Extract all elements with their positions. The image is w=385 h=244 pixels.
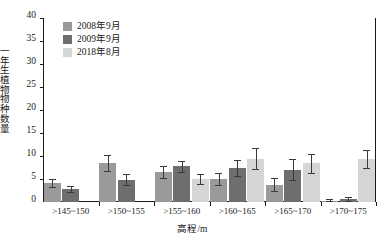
y-axis-tick-mark [40, 41, 44, 42]
x-axis-tick-label: >145~150 [43, 207, 99, 216]
error-bar-cap-lower [49, 187, 56, 188]
error-bar-cap-lower [252, 169, 259, 170]
y-axis-tick-mark [40, 64, 44, 65]
error-bar [367, 150, 368, 168]
error-bar-cap-upper [160, 166, 167, 167]
error-bar-cap-upper [289, 159, 296, 160]
annual-plant-species-bar-chart: 一年生植物物种数量 0510152025303540 >145~150>150~… [0, 0, 385, 244]
y-axis-tick-label: 25 [27, 80, 37, 90]
y-axis-title-char: 量 [0, 125, 14, 135]
y-axis-tick-label: 40 [27, 11, 37, 21]
error-bar-cap-lower [123, 185, 130, 186]
error-bar-cap-upper [49, 179, 56, 180]
error-bar-cap-upper [178, 161, 185, 162]
legend: 2008年9月2009年9月2018年8月 [63, 20, 121, 59]
legend-item: 2018年8月 [63, 46, 121, 59]
error-bar-cap-lower [104, 171, 111, 172]
x-axis-tick-mark [99, 202, 100, 206]
x-axis-tick-mark [265, 202, 266, 206]
error-bar-cap-lower [326, 201, 333, 202]
y-axis-tick-mark [40, 87, 44, 88]
legend-item: 2008年9月 [63, 20, 121, 33]
legend-label: 2018年8月 [77, 48, 121, 58]
error-bar-cap-lower [67, 192, 74, 193]
legend-label: 2008年9月 [77, 22, 121, 32]
y-axis-tick-mark [40, 110, 44, 111]
y-axis-tick-label: 5 [31, 172, 36, 182]
error-bar-cap-upper [197, 174, 204, 175]
legend-swatch-icon [63, 22, 72, 31]
error-bar [182, 161, 183, 172]
error-bar-cap-upper [363, 150, 370, 151]
error-bar-cap-upper [345, 197, 352, 198]
y-axis-tick-mark [40, 156, 44, 157]
y-axis-tick-label: 10 [27, 149, 37, 159]
error-bar [274, 178, 275, 191]
x-axis-tick-label: >155~160 [154, 207, 210, 216]
error-bar [52, 179, 53, 187]
error-bar [311, 154, 312, 173]
error-bar-cap-lower [289, 180, 296, 181]
x-axis-tick-mark [376, 202, 377, 206]
x-axis-tick-mark [154, 202, 155, 206]
error-bar-cap-upper [252, 148, 259, 149]
error-bar-cap-lower [234, 176, 241, 177]
error-bar-cap-lower [197, 184, 204, 185]
x-axis-tick-label: >160~165 [210, 207, 266, 216]
error-bar-cap-upper [104, 155, 111, 156]
legend-item: 2009年9月 [63, 33, 121, 46]
error-bar-cap-lower [271, 191, 278, 192]
error-bar [256, 148, 257, 169]
error-bar [163, 166, 164, 178]
error-bar-cap-lower [215, 185, 222, 186]
y-axis-tick-label: 30 [27, 57, 37, 67]
error-bar-cap-lower [363, 168, 370, 169]
x-axis-tick-label: >170~175 [321, 207, 377, 216]
y-axis-tick-label: 0 [31, 195, 36, 205]
y-axis-tick-mark [40, 179, 44, 180]
y-axis-tick-label: 15 [27, 126, 37, 136]
x-axis-title: 高程/m [0, 221, 385, 235]
y-axis-tick-label: 20 [27, 103, 37, 113]
error-bar-cap-upper [215, 173, 222, 174]
error-bar-cap-lower [160, 178, 167, 179]
x-axis-tick-mark [321, 202, 322, 206]
x-axis-tick-label: >165~170 [265, 207, 321, 216]
x-axis-tick-mark [210, 202, 211, 206]
error-bar [126, 174, 127, 185]
x-axis-tick-label: >150~155 [99, 207, 155, 216]
legend-label: 2009年9月 [77, 35, 121, 45]
error-bar-cap-upper [67, 186, 74, 187]
error-bar-cap-upper [308, 154, 315, 155]
y-axis-title: 一年生植物物种数量 [0, 47, 14, 134]
error-bar [237, 160, 238, 176]
error-bar-cap-upper [234, 160, 241, 161]
error-bar [293, 159, 294, 180]
y-axis-tick-mark [40, 133, 44, 134]
error-bar [200, 174, 201, 184]
legend-swatch-icon [63, 35, 72, 44]
error-bar-cap-upper [123, 174, 130, 175]
error-bar [219, 173, 220, 186]
y-axis-tick-mark [40, 18, 44, 19]
error-bar-cap-lower [308, 173, 315, 174]
error-bar [108, 155, 109, 171]
error-bar-cap-upper [271, 178, 278, 179]
error-bar-cap-lower [345, 201, 352, 202]
error-bar-cap-lower [178, 172, 185, 173]
y-axis-tick-label: 35 [27, 34, 37, 44]
legend-swatch-icon [63, 48, 72, 57]
